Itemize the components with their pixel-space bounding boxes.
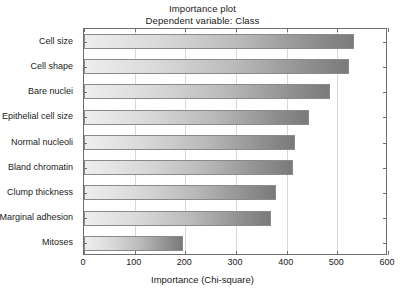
bar[interactable] bbox=[84, 84, 330, 99]
y-axis-tick bbox=[383, 218, 387, 219]
x-axis-tick bbox=[236, 28, 237, 32]
y-axis-tick bbox=[83, 243, 87, 244]
y-axis-labels: Cell sizeCell shapeBare nucleiEpithelial… bbox=[0, 28, 78, 255]
bar-row bbox=[84, 29, 386, 54]
y-axis-tick bbox=[83, 193, 87, 194]
y-axis-tick bbox=[383, 168, 387, 169]
x-axis-title: Importance (Chi-square) bbox=[0, 274, 405, 285]
x-axis-tick bbox=[135, 28, 136, 32]
x-axis-tick-label: 500 bbox=[329, 257, 344, 267]
x-axis-tick-label: 300 bbox=[227, 257, 242, 267]
x-axis-tick bbox=[337, 251, 338, 255]
y-axis-tick bbox=[83, 67, 87, 68]
x-axis-tick bbox=[388, 28, 389, 32]
x-axis-tick bbox=[185, 251, 186, 255]
y-axis-tick bbox=[383, 243, 387, 244]
x-axis-tick bbox=[287, 251, 288, 255]
importance-bar-chart: Importance plot Dependent variable: Clas… bbox=[0, 0, 405, 295]
y-axis-label-bland-chromatin: Bland chromatin bbox=[0, 162, 73, 172]
x-axis-tick bbox=[287, 28, 288, 32]
bar-row bbox=[84, 130, 386, 155]
y-axis-tick bbox=[383, 42, 387, 43]
x-axis-tick-label: 600 bbox=[379, 257, 394, 267]
y-axis-tick bbox=[83, 218, 87, 219]
x-axis-tick bbox=[236, 251, 237, 255]
x-axis-tick bbox=[388, 251, 389, 255]
bar[interactable] bbox=[84, 160, 293, 175]
bar[interactable] bbox=[84, 135, 295, 150]
y-axis-tick bbox=[383, 92, 387, 93]
y-axis-label-cell-shape: Cell shape bbox=[0, 61, 73, 71]
chart-subtitle: Dependent variable: Class bbox=[0, 15, 405, 27]
x-axis-tick bbox=[337, 28, 338, 32]
y-axis-label-cell-size: Cell size bbox=[0, 36, 73, 46]
y-axis-label-clump-thickness: Clump thickness bbox=[0, 187, 73, 197]
bar-row bbox=[84, 231, 386, 256]
bar-row bbox=[84, 105, 386, 130]
y-axis-label-bare-nuclei: Bare nuclei bbox=[0, 86, 73, 96]
y-axis-tick bbox=[83, 143, 87, 144]
y-axis-label-marginal-adhesion: Marginal adhesion bbox=[0, 212, 73, 222]
bar[interactable] bbox=[84, 34, 354, 49]
x-axis-tick-label: 200 bbox=[177, 257, 192, 267]
y-axis-tick bbox=[83, 42, 87, 43]
bars-layer bbox=[84, 29, 386, 254]
x-axis-tick bbox=[84, 28, 85, 32]
bar-row bbox=[84, 155, 386, 180]
bar-row bbox=[84, 206, 386, 231]
bar-row bbox=[84, 79, 386, 104]
plot-area bbox=[83, 28, 387, 255]
x-axis-tick bbox=[84, 251, 85, 255]
y-axis-label-epithelial-cell-size: Epithelial cell size bbox=[0, 111, 73, 121]
y-axis-tick bbox=[383, 117, 387, 118]
chart-title-block: Importance plot Dependent variable: Clas… bbox=[0, 3, 405, 27]
x-axis-tick bbox=[185, 28, 186, 32]
x-axis-tick-label: 400 bbox=[278, 257, 293, 267]
y-axis-tick bbox=[383, 193, 387, 194]
bar[interactable] bbox=[84, 236, 183, 251]
x-axis-tick-labels: 0100200300400500600 bbox=[0, 257, 405, 271]
y-axis-tick bbox=[383, 143, 387, 144]
bar[interactable] bbox=[84, 59, 349, 74]
y-axis-label-normal-nucleoli: Normal nucleoli bbox=[0, 137, 73, 147]
bar-row bbox=[84, 54, 386, 79]
x-axis-tick-label: 100 bbox=[126, 257, 141, 267]
bar[interactable] bbox=[84, 185, 276, 200]
x-axis-tick-label: 0 bbox=[80, 257, 85, 267]
y-axis-tick bbox=[383, 67, 387, 68]
y-axis-tick bbox=[83, 117, 87, 118]
bar[interactable] bbox=[84, 211, 271, 226]
bar-row bbox=[84, 180, 386, 205]
y-axis-tick bbox=[83, 168, 87, 169]
x-axis-tick bbox=[135, 251, 136, 255]
y-axis-label-mitoses: Mitoses bbox=[0, 237, 73, 247]
bar[interactable] bbox=[84, 110, 309, 125]
page-title: Importance plot bbox=[0, 3, 405, 15]
y-axis-tick bbox=[83, 92, 87, 93]
